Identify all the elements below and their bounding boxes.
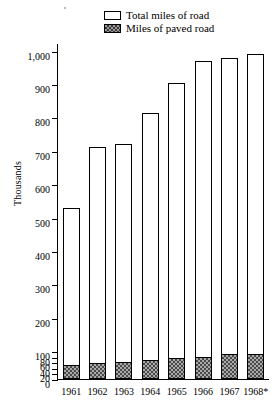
bar-total-miles	[168, 83, 185, 379]
y-tick-label: 600	[35, 189, 50, 190]
x-tick-label: 1968*	[243, 386, 269, 397]
bar-total-miles	[63, 208, 80, 379]
bar-paved-miles	[196, 357, 211, 378]
y-axis-title: Thousands	[12, 154, 23, 214]
y-tick-label: 0	[45, 384, 50, 385]
bar-group	[63, 208, 80, 379]
y-tick-label: 1,000	[28, 56, 51, 57]
x-axis-line	[57, 379, 269, 380]
bar-group	[89, 147, 106, 379]
bar-group	[221, 58, 238, 379]
y-tick-label: 800	[35, 122, 50, 123]
bar-group	[195, 61, 212, 379]
y-tick-label: 200	[35, 323, 50, 324]
bar-paved-miles	[248, 354, 263, 378]
legend-swatch-paved-icon	[104, 24, 121, 33]
y-tick-label: 900	[35, 89, 50, 90]
bar-group	[168, 83, 185, 379]
x-tick-label: 1963	[111, 386, 137, 397]
bar-total-miles	[115, 144, 132, 379]
plot-area: 1,00090080070060050040030020010080604020…	[57, 44, 269, 380]
bar-paved-miles	[169, 358, 184, 378]
x-tick-label: 1967	[216, 386, 242, 397]
bar-total-miles	[195, 61, 212, 379]
y-tick-mark	[52, 380, 58, 381]
legend-label-total: Total miles of road	[126, 10, 209, 21]
bar-paved-miles	[222, 354, 237, 378]
chart-legend: Total miles of road Miles of paved road	[104, 9, 214, 34]
x-tick-label: 1961	[58, 386, 84, 397]
bar-group	[142, 113, 159, 379]
bar-paved-miles	[64, 365, 79, 378]
bar-paved-miles	[143, 360, 158, 378]
bar-total-miles	[247, 54, 264, 379]
y-tick-label: 500	[35, 223, 50, 224]
legend-swatch-total-icon	[104, 11, 121, 20]
x-tick-label: 1965	[164, 386, 190, 397]
y-tick-label: 300	[35, 289, 50, 290]
legend-item-total: Total miles of road	[104, 9, 214, 21]
x-tick-label: 1964	[137, 386, 163, 397]
bar-total-miles	[142, 113, 159, 379]
y-tick-label: 400	[35, 256, 50, 257]
bar-chart: Total miles of road Miles of paved road …	[0, 0, 278, 411]
legend-label-paved: Miles of paved road	[126, 23, 214, 34]
bars-group	[58, 44, 269, 379]
x-tick-label: 1966	[190, 386, 216, 397]
legend-item-paved: Miles of paved road	[104, 22, 214, 34]
bar-paved-miles	[116, 362, 131, 378]
page-speck	[64, 7, 66, 9]
bar-group	[115, 144, 132, 379]
y-tick-label: 700	[35, 156, 50, 157]
bar-paved-miles	[90, 363, 105, 378]
bar-total-miles	[89, 147, 106, 379]
bar-total-miles	[221, 58, 238, 379]
bar-group	[247, 54, 264, 379]
x-tick-label: 1962	[84, 386, 110, 397]
